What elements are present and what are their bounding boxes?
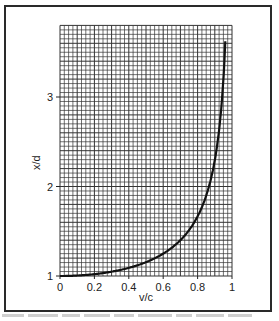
x-tick-label: 1 [229, 281, 235, 293]
y-tick-label: 3 [47, 91, 53, 103]
truncated-caption [2, 314, 277, 321]
x-tick-label: 0.4 [121, 281, 136, 293]
grid [60, 25, 232, 276]
y-tick-label: 1 [47, 270, 53, 282]
data-curve [60, 41, 225, 276]
x-tick-label: 0.2 [87, 281, 102, 293]
y-tick-label: 2 [47, 181, 53, 193]
x-tick-label: 0.6 [156, 281, 171, 293]
x-axis-label: v/c [139, 291, 154, 303]
x-tick-label: 0 [57, 281, 63, 293]
x-tick-label: 0.8 [190, 281, 205, 293]
y-axis-label: x/d [30, 155, 42, 170]
